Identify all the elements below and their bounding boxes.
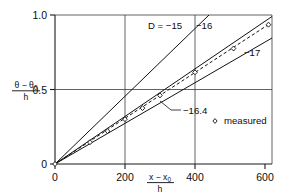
chart-svg: D = −15 −16 −17 −16.4 measured 1.0 0.5 0… bbox=[0, 0, 286, 196]
x-axis-label: x − x0 h bbox=[147, 172, 174, 194]
x-tick-label-600: 600 bbox=[256, 171, 274, 183]
chart-figure: D = −15 −16 −17 −16.4 measured 1.0 0.5 0… bbox=[0, 0, 286, 196]
x-axis-label-numerator: x − x0 bbox=[149, 172, 171, 183]
legend-label-measured: measured bbox=[224, 115, 267, 126]
x-tick-label-200: 200 bbox=[116, 171, 134, 183]
y-axis-label-denominator: h bbox=[24, 92, 29, 102]
curve-label-minus-16: −16 bbox=[196, 20, 212, 31]
curve-label-minus-16p4: −16.4 bbox=[183, 105, 208, 116]
y-tick-label-1.0: 1.0 bbox=[32, 9, 47, 21]
legend-marker-measured-icon bbox=[213, 119, 217, 124]
y-axis-label-numerator: θ − θ0 bbox=[15, 80, 38, 91]
legend: measured bbox=[213, 115, 267, 126]
annotation-leader-16p4 bbox=[160, 101, 181, 110]
data-point bbox=[88, 140, 93, 145]
curve-D-minus-16p4 bbox=[55, 24, 270, 165]
data-point bbox=[266, 22, 271, 27]
curve-label-minus-17: −17 bbox=[244, 47, 260, 58]
data-point bbox=[140, 106, 145, 111]
x-tick-label-0: 0 bbox=[52, 171, 58, 183]
leader-line bbox=[160, 101, 181, 110]
x-tick-label-400: 400 bbox=[186, 171, 204, 183]
curve-label-D-minus-15: D = −15 bbox=[148, 20, 182, 31]
curve-D-minus-17 bbox=[55, 38, 272, 164]
y-tick-label-0: 0 bbox=[41, 158, 47, 170]
x-axis-label-denominator: h bbox=[158, 184, 163, 194]
y-axis-label: θ − θ0 h bbox=[12, 80, 40, 102]
